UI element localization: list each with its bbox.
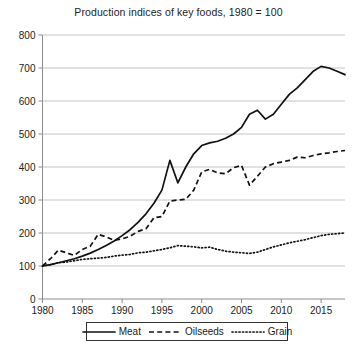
series-line-oilseeds xyxy=(43,151,346,267)
legend-item-grain[interactable]: Grain xyxy=(231,326,292,337)
tickmarks-group xyxy=(39,35,322,303)
y-tick-label: 200 xyxy=(19,228,36,239)
y-tick-label: 500 xyxy=(19,129,36,140)
y-tick-label: 400 xyxy=(19,162,36,173)
x-tick-label: 1980 xyxy=(31,305,54,316)
legend-swatch-solid-icon xyxy=(82,328,116,336)
legend-item-meat[interactable]: Meat xyxy=(82,326,141,337)
y-tick-label: 0 xyxy=(30,294,36,305)
y-tick-label: 700 xyxy=(19,63,36,74)
legend-swatch-dotted-icon xyxy=(231,328,265,336)
series-line-meat xyxy=(43,66,346,266)
legend-label: Oilseeds xyxy=(185,326,224,337)
x-tick-label: 1995 xyxy=(151,305,174,316)
x-tick-label: 2000 xyxy=(191,305,214,316)
chart-legend: MeatOilseedsGrain xyxy=(86,322,288,341)
legend-item-oilseeds[interactable]: Oilseeds xyxy=(148,326,224,337)
x-tick-label: 1985 xyxy=(71,305,94,316)
series-line-grain xyxy=(43,233,346,266)
legend-label: Meat xyxy=(119,326,141,337)
x-tick-label: 2010 xyxy=(270,305,293,316)
y-tick-label: 600 xyxy=(19,96,36,107)
x-tick-label: 2015 xyxy=(310,305,333,316)
x-tick-label: 1990 xyxy=(111,305,134,316)
series-group xyxy=(43,66,346,266)
y-tick-label: 800 xyxy=(19,30,36,41)
chart-plot: 0100200300400500600700800 19801985199019… xyxy=(0,0,357,359)
legend-label: Grain xyxy=(268,326,292,337)
chart-container: Production indices of key foods, 1980 = … xyxy=(0,0,357,359)
x-axis-tick-labels: 19801985199019952000200520102015 xyxy=(31,305,332,316)
legend-swatch-dashed-icon xyxy=(148,328,182,336)
y-tick-label: 100 xyxy=(19,261,36,272)
y-tick-label: 300 xyxy=(19,195,36,206)
x-tick-label: 2005 xyxy=(230,305,253,316)
y-axis-tick-labels: 0100200300400500600700800 xyxy=(19,30,36,305)
